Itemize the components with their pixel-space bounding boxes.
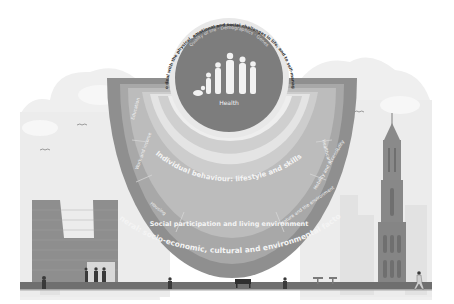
skyline-block [340, 195, 358, 295]
elder-head [250, 61, 256, 67]
person-body [168, 281, 172, 289]
person-head [283, 277, 286, 280]
person-head [94, 267, 97, 270]
street-ground [20, 282, 432, 289]
person-head [42, 276, 46, 280]
person-body [85, 271, 88, 282]
tower-window [383, 260, 387, 278]
tower-window [383, 235, 387, 253]
tower-upper [383, 140, 401, 180]
person-head [417, 271, 421, 275]
baby-figure [193, 90, 203, 96]
cafe-table-leg [317, 279, 319, 284]
child-figure [206, 78, 211, 94]
cloud-puff [380, 96, 420, 114]
health-label: Health [219, 99, 239, 106]
cafe-table [313, 277, 323, 279]
tower-window [390, 188, 394, 216]
person-body [102, 271, 106, 282]
person-head [85, 268, 88, 271]
elder-figure [250, 67, 256, 94]
child-head [206, 73, 211, 78]
bench-leg [236, 284, 238, 288]
person-head [102, 267, 105, 270]
cloud-puff [22, 120, 58, 136]
tower-window [394, 148, 396, 172]
pedestrian-figure [42, 276, 46, 289]
adult-figure [226, 60, 234, 94]
standing-person-figure [283, 277, 287, 289]
walking-person-figure [168, 277, 172, 289]
baby-head [201, 86, 205, 90]
health-core: Quality of life · Demographics · Genes H… [169, 18, 289, 138]
tower-window [390, 260, 394, 278]
teen-figure [215, 68, 221, 94]
bench-leg [249, 284, 251, 288]
tower-window [397, 260, 401, 278]
tower-window [390, 235, 394, 253]
person-head [168, 277, 171, 280]
person-body [283, 281, 287, 289]
person-body [94, 271, 98, 282]
building-entrance [87, 262, 115, 282]
tower-window [397, 235, 401, 253]
teen-head [215, 62, 221, 68]
skyline-block [405, 205, 427, 295]
health-model-illustration: General: socio-economic, cultural and en… [0, 0, 454, 304]
sidewalk-line [20, 289, 432, 291]
cafe-table [329, 277, 337, 279]
adult-head [227, 53, 233, 59]
bench [235, 279, 251, 284]
person-body [42, 280, 46, 289]
cafe-table-leg [332, 279, 334, 284]
tower-window [388, 148, 390, 172]
woman-head [240, 57, 246, 63]
woman-figure [239, 63, 246, 94]
